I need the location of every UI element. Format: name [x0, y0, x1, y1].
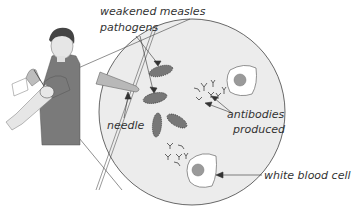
label-pathogens-line1: weakened measles: [100, 5, 206, 18]
neck: [57, 56, 65, 62]
label-pathogens-line2: pathogens: [99, 21, 158, 34]
white-blood-cell-bottom: [187, 154, 217, 188]
label-antibodies-line2: produced: [232, 123, 286, 136]
person-figure: [6, 28, 80, 145]
label-white-blood-cell: white blood cell: [264, 169, 351, 182]
white-blood-cell-top: [227, 65, 257, 95]
vaccination-diagram: weakened measles pathogens needle antibo…: [0, 0, 353, 208]
label-antibodies-line1: antibodies: [227, 108, 285, 121]
label-needle: needle: [107, 119, 145, 132]
injection-site: [40, 86, 54, 98]
sleeve-cuff: [12, 78, 28, 96]
hand: [26, 69, 40, 86]
